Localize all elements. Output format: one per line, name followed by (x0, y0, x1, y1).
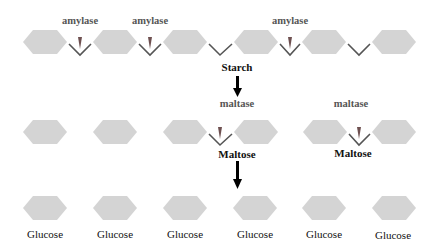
starch-chain (23, 30, 416, 54)
glucose-unit (372, 30, 416, 54)
cut-arrow-icon (357, 127, 361, 139)
cut-arrow-icon (218, 127, 222, 139)
glucose-unit (93, 196, 137, 220)
cut-arrow-icon (288, 37, 292, 49)
starch-label: Starch (222, 61, 253, 73)
down-arrow-icon (233, 161, 242, 189)
cut-arrow-icon (148, 37, 152, 49)
glucose-unit (302, 30, 346, 54)
glucose-label: Glucose (237, 228, 273, 240)
glucose-label: Glucose (97, 228, 133, 240)
down-arrow-icon (233, 76, 242, 97)
glucose-unit (23, 30, 67, 54)
glucose-unit (93, 30, 137, 54)
glucose-unit (93, 120, 137, 144)
maltose-label: Maltose (334, 147, 371, 159)
glucose-unit (163, 196, 207, 220)
digestion-diagram (0, 0, 442, 251)
glucose-unit (234, 30, 278, 54)
glucose-label: Glucose (27, 228, 63, 240)
glucose-unit (163, 120, 207, 144)
glucose-unit (372, 196, 416, 220)
enzyme-label-maltase: maltase (334, 98, 368, 109)
glucose-unit (234, 120, 278, 144)
glucose-unit (23, 120, 67, 144)
enzyme-label-amylase: amylase (132, 15, 168, 26)
glucose-label: Glucose (375, 229, 411, 241)
glucose-row (23, 196, 416, 220)
glucose-label: Glucose (167, 228, 203, 240)
maltose-label: Maltose (218, 148, 255, 160)
cut-arrow-icon (78, 37, 82, 49)
glucose-unit (303, 120, 347, 144)
glucose-unit (163, 30, 207, 54)
glucose-unit (302, 196, 346, 220)
glucose-unit (372, 120, 416, 144)
enzyme-label-amylase: amylase (272, 15, 308, 26)
enzyme-label-amylase: amylase (62, 15, 98, 26)
glucose-unit (23, 196, 67, 220)
bond (209, 44, 232, 55)
enzyme-label-maltase: maltase (220, 98, 254, 109)
bond (348, 44, 370, 55)
glucose-unit (233, 196, 277, 220)
glucose-label: Glucose (306, 228, 342, 240)
